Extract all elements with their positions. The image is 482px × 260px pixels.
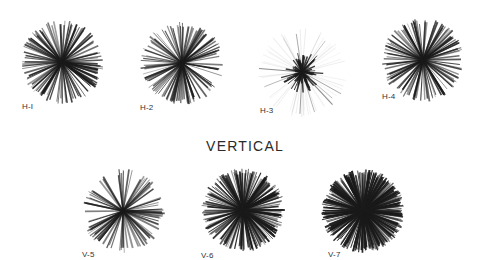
rose-label-h4: H-4 bbox=[382, 92, 396, 101]
rose-label-v5: V-5 bbox=[82, 250, 95, 259]
rose-label-h3: H-3 bbox=[260, 106, 274, 115]
rose-label-v7: V-7 bbox=[328, 250, 341, 259]
rose-diagram-h4 bbox=[379, 16, 467, 104]
rose-label-h2: H-2 bbox=[140, 103, 154, 112]
rose-diagram-figure: H-IH-2H-3H-4V-5V-6V-7 VERTICAL bbox=[0, 0, 482, 260]
rose-label-h1: H-I bbox=[22, 102, 33, 111]
section-title-vertical: VERTICAL bbox=[200, 138, 290, 154]
rose-label-v6: V-6 bbox=[201, 251, 214, 260]
rose-diagram-h2 bbox=[138, 19, 226, 107]
rose-diagram-v5 bbox=[79, 167, 167, 255]
rose-diagram-v6 bbox=[199, 166, 287, 254]
rose-diagram-h1 bbox=[18, 18, 106, 106]
rose-diagram-v7 bbox=[319, 167, 407, 255]
rose-diagram-h3 bbox=[255, 25, 349, 119]
